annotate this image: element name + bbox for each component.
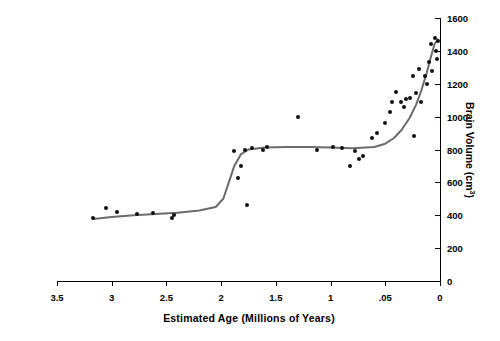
y-tick-label: 1400 <box>447 45 468 56</box>
data-point <box>383 121 387 125</box>
data-point <box>404 97 408 101</box>
x-tick-label: 1 <box>328 292 333 303</box>
y-tick-label: 0 <box>447 276 452 287</box>
data-point <box>296 115 300 119</box>
data-point <box>348 164 352 168</box>
plot-area <box>57 18 440 281</box>
data-point <box>370 136 374 140</box>
data-point <box>388 110 392 114</box>
x-tick-mark <box>57 281 58 286</box>
data-point <box>331 145 335 149</box>
data-point <box>427 60 431 64</box>
x-tick-label: 2 <box>218 292 223 303</box>
x-tick-label: 3.5 <box>50 292 63 303</box>
data-point <box>419 100 423 104</box>
y-tick-label: 800 <box>447 144 463 155</box>
data-point <box>236 176 240 180</box>
data-point <box>414 91 418 95</box>
x-tick-label: .05 <box>379 292 392 303</box>
data-point <box>361 154 365 158</box>
x-tick-label: 1.5 <box>269 292 282 303</box>
data-point <box>135 212 139 216</box>
y-tick-mark <box>435 182 440 183</box>
data-point <box>429 42 433 46</box>
y-tick-mark <box>435 117 440 118</box>
data-point <box>151 211 155 215</box>
x-axis-title: Estimated Age (Millions of Years) <box>57 312 441 324</box>
data-point <box>261 148 265 152</box>
y-tick-mark <box>435 18 440 19</box>
data-point <box>412 134 416 138</box>
data-point <box>243 148 247 152</box>
x-tick-label: 2.5 <box>160 292 173 303</box>
data-point <box>408 96 412 100</box>
x-tick-mark <box>221 281 222 286</box>
x-tick-label: 3 <box>109 292 114 303</box>
y-tick-label: 600 <box>447 177 463 188</box>
data-point <box>423 74 427 78</box>
data-point <box>172 213 176 217</box>
y-axis-line <box>440 18 441 282</box>
x-tick-mark <box>166 281 167 286</box>
data-point <box>375 131 379 135</box>
data-point <box>435 57 439 61</box>
data-point <box>340 146 344 150</box>
data-point <box>315 148 319 152</box>
y-tick-mark <box>435 150 440 151</box>
data-point <box>430 69 434 73</box>
data-point <box>245 203 249 207</box>
x-tick-label: 0 <box>437 292 442 303</box>
data-point <box>239 164 243 168</box>
data-point <box>232 149 236 153</box>
x-axis-line <box>57 281 441 282</box>
x-tick-mark <box>112 281 113 286</box>
data-point <box>402 105 406 109</box>
y-tick-mark <box>435 51 440 52</box>
data-point <box>411 74 415 78</box>
y-tick-mark <box>435 84 440 85</box>
data-point <box>250 146 254 150</box>
data-point <box>399 100 403 104</box>
y-tick-mark <box>435 215 440 216</box>
data-point <box>390 100 394 104</box>
y-tick-label: 200 <box>447 243 463 254</box>
data-point <box>353 149 357 153</box>
y-tick-mark <box>435 281 440 282</box>
data-point <box>417 67 421 71</box>
y-tick-label: 1600 <box>447 13 468 24</box>
x-tick-mark <box>331 281 332 286</box>
x-tick-mark <box>385 281 386 286</box>
trend-line-curve <box>57 18 440 281</box>
x-tick-mark <box>276 281 277 286</box>
data-point <box>394 90 398 94</box>
brain-volume-scatter-chart: 3.532.521.51.050 02004006008001000120014… <box>0 0 500 341</box>
y-tick-label: 400 <box>447 210 463 221</box>
data-point <box>425 82 429 86</box>
y-tick-label: 1200 <box>447 78 468 89</box>
data-point <box>265 145 269 149</box>
data-point <box>91 216 95 220</box>
data-point <box>104 206 108 210</box>
data-point <box>357 157 361 161</box>
y-axis-title: Brain Volume (cm3) <box>464 102 477 198</box>
x-tick-mark <box>440 281 441 286</box>
data-point <box>115 210 119 214</box>
y-tick-mark <box>435 248 440 249</box>
